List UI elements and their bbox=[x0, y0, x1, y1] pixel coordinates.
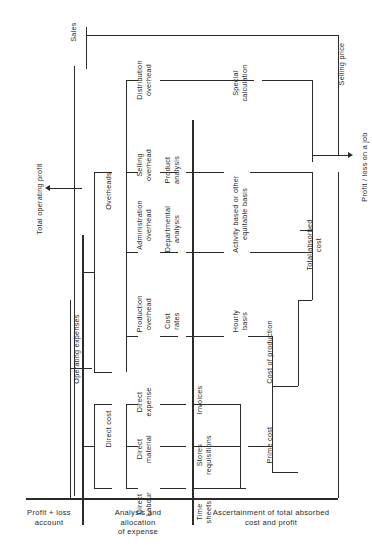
line-special-calc-down bbox=[312, 80, 313, 156]
line-branch-direct-labour bbox=[126, 488, 138, 489]
line-branch-administration bbox=[126, 252, 138, 253]
line-direct-labour-run bbox=[160, 488, 186, 489]
line-total-operating-profit bbox=[50, 188, 82, 189]
label-profit-loss-on-a-job: Profit / loss on a job bbox=[361, 112, 370, 222]
line-selling-price-stem-lower bbox=[338, 172, 339, 498]
line-admin-to-departmental bbox=[160, 252, 178, 253]
label-stores-requisitions: Stores requisitions bbox=[196, 418, 213, 492]
line-baseline bbox=[26, 498, 338, 500]
line-sales-stem bbox=[74, 66, 75, 496]
label-total-absorbed-cost: Total absorbed cost bbox=[306, 202, 323, 288]
line-branch-production bbox=[126, 336, 138, 337]
line-invoices-run bbox=[192, 404, 240, 405]
label-distribution-overhead: Distribution overhead bbox=[136, 40, 153, 120]
line-invoices-down bbox=[240, 404, 241, 488]
line-direct-cost-stub-bottom bbox=[94, 488, 112, 489]
line-time-sheets-run bbox=[192, 488, 240, 489]
line-overhead-branch-spine bbox=[126, 80, 127, 372]
line-distribution-to-divider bbox=[160, 80, 194, 81]
label-special-calculation: Special calculation bbox=[232, 46, 249, 120]
line-overheads-spine bbox=[94, 172, 95, 372]
label-sales: Sales bbox=[70, 2, 79, 62]
line-direct-material-run bbox=[160, 446, 186, 447]
line-direct-expense-run bbox=[160, 404, 186, 405]
label-overheads: Overheads bbox=[105, 156, 114, 226]
line-total-absorbed-bottom bbox=[298, 300, 312, 301]
line-hourly-basis-run bbox=[248, 336, 272, 337]
line-cost-of-production-riser bbox=[298, 300, 299, 386]
line-cost-of-production-bottom bbox=[272, 472, 298, 473]
line-cost-of-production-spine bbox=[272, 386, 273, 472]
line-branch-direct-material bbox=[126, 446, 138, 447]
line-direct-cost-join bbox=[82, 446, 94, 447]
line-special-calc-run bbox=[192, 80, 254, 81]
line-production-to-cost-rates bbox=[160, 336, 178, 337]
line-selling-to-product-analysis bbox=[160, 172, 178, 173]
line-column-divider-1 bbox=[82, 235, 84, 525]
line-sales-tick bbox=[86, 27, 87, 69]
line-special-calc-right bbox=[262, 80, 312, 81]
line-departmental-run bbox=[186, 252, 224, 253]
line-selling-price-stem bbox=[338, 35, 339, 155]
label-direct-material: Direct material bbox=[136, 418, 153, 480]
line-operating-expenses-stem bbox=[70, 300, 71, 498]
line-direct-cost-stub-top bbox=[94, 404, 112, 405]
line-sales-top bbox=[86, 35, 338, 36]
arrow-profit-loss-job bbox=[348, 152, 353, 158]
label-total-operating-profit: Total operating profit bbox=[36, 144, 45, 254]
line-activity-top-run bbox=[250, 172, 312, 173]
arrow-total-operating-profit bbox=[45, 185, 50, 191]
line-branch-distribution bbox=[126, 80, 138, 81]
line-operating-expenses-tie bbox=[70, 368, 92, 369]
line-branch-selling bbox=[126, 172, 138, 173]
label-activity-basis: Activity based or other equitable basis bbox=[232, 160, 249, 268]
line-column-divider-2 bbox=[192, 120, 194, 525]
line-activity-bottom-run bbox=[250, 252, 312, 253]
line-cost-rates-run bbox=[186, 336, 224, 337]
caption-profit-loss-account: Profit + loss account bbox=[18, 508, 80, 527]
line-hourly-basis-down bbox=[272, 336, 273, 386]
diagram-canvas: Sales Selling price Total operating prof… bbox=[0, 0, 372, 560]
line-product-analysis-run bbox=[186, 172, 224, 173]
label-departmental-analysis: Departmental analysis bbox=[164, 190, 181, 268]
label-cost-rates: Cost rates bbox=[164, 296, 181, 346]
line-branch-direct-expense bbox=[126, 404, 138, 405]
line-total-absorbed-spine bbox=[312, 172, 313, 300]
line-total-absorbed-stub bbox=[300, 230, 312, 231]
line-stores-req-run bbox=[192, 446, 240, 447]
caption-analysis-allocation: Analysis and allocation of expense bbox=[96, 508, 180, 537]
line-prime-cost-run bbox=[248, 446, 272, 447]
caption-ascertainment: Ascertainment of total absorbed cost and… bbox=[198, 508, 344, 527]
label-administration-overhead: Administration overhead bbox=[136, 182, 153, 268]
label-production-overhead: Production overhead bbox=[136, 276, 153, 352]
line-invoices-tie bbox=[240, 488, 246, 489]
line-cost-of-production-top bbox=[272, 386, 298, 387]
line-overheads-join bbox=[82, 272, 94, 273]
label-hourly-basis: Hourly basis bbox=[232, 296, 249, 346]
line-overheads-stub-bottom bbox=[94, 372, 112, 373]
line-overheads-stub-top bbox=[94, 172, 112, 173]
line-profit-loss-job bbox=[312, 155, 348, 156]
line-direct-cost-spine bbox=[94, 404, 95, 488]
